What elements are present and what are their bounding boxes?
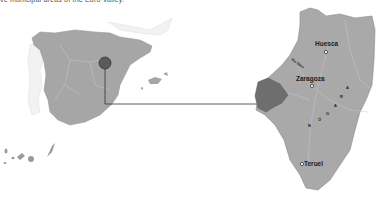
svg-text:A: A xyxy=(334,103,337,108)
aragon-detail-map: Huesca Zaragoza Teruel Río Ebro A R A G … xyxy=(255,8,375,190)
map-figure: Huesca Zaragoza Teruel Río Ebro A R A G … xyxy=(0,0,379,197)
svg-text:N: N xyxy=(308,123,311,128)
svg-text:G: G xyxy=(326,111,329,116)
svg-text:R: R xyxy=(340,94,343,99)
spain-overview-map xyxy=(4,18,173,164)
location-marker xyxy=(99,57,111,69)
label-teruel: Teruel xyxy=(304,160,323,167)
svg-text:Ó: Ó xyxy=(318,117,321,122)
svg-text:A: A xyxy=(346,85,349,90)
label-huesca: Huesca xyxy=(315,40,339,47)
connector-line xyxy=(105,69,272,104)
label-zaragoza: Zaragoza xyxy=(296,75,325,83)
